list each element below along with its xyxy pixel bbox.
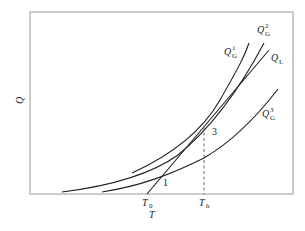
svg-text:3: 3 — [270, 106, 274, 114]
svg-text:2: 2 — [265, 22, 269, 30]
svg-text:L: L — [279, 58, 283, 66]
x-axis-label: T — [149, 209, 156, 220]
label-QG2: Q G 2 — [257, 22, 270, 38]
curve-QG1 — [132, 43, 249, 173]
tick-Th: T h — [199, 197, 210, 210]
svg-text:G: G — [232, 52, 237, 60]
curve-QG2 — [62, 43, 264, 192]
svg-text:Q: Q — [271, 52, 279, 63]
svg-text:h: h — [206, 202, 210, 210]
label-QG1: Q G 1 — [224, 44, 237, 60]
label-QG3: Q G 3 — [262, 106, 275, 122]
point-label-3: 3 — [212, 126, 217, 137]
svg-text:G: G — [270, 114, 275, 122]
point-label-1: 1 — [163, 177, 168, 188]
svg-text:T: T — [199, 197, 206, 208]
curve-QL — [147, 50, 269, 194]
svg-text:Q: Q — [257, 24, 265, 35]
svg-text:T: T — [142, 197, 149, 208]
svg-text:Q: Q — [262, 108, 270, 119]
curve-QG3 — [102, 89, 278, 192]
svg-text:Q: Q — [224, 46, 232, 57]
diagram-canvas: Q G 1 Q G 2 Q L Q G 3 1 3 T 0 T h T Q — [0, 0, 305, 231]
svg-text:G: G — [265, 30, 270, 38]
plot-frame — [30, 12, 293, 194]
label-QL: Q L — [271, 52, 283, 66]
svg-text:1: 1 — [232, 44, 236, 52]
y-axis-label: Q — [14, 96, 25, 104]
